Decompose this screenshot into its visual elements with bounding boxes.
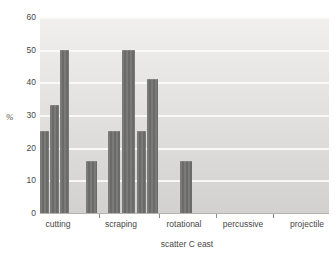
bar-rotational-16 — [180, 161, 192, 213]
y-axis-title: % — [6, 113, 14, 122]
gridline-60 — [40, 17, 329, 19]
y-axis-tick-label: 20 — [10, 144, 36, 153]
gridline-50 — [40, 50, 329, 52]
y-axis-tick-label: 30 — [10, 111, 36, 120]
gridline-30 — [40, 115, 329, 117]
y-axis-tick-label: 50 — [10, 46, 36, 55]
bar-scraping-25 — [137, 131, 146, 213]
x-category-label-cutting: cutting — [45, 220, 70, 229]
x-category-label-scraping: scraping — [105, 220, 137, 229]
category-boundary-tick — [159, 214, 160, 218]
y-axis-tick-label: 60 — [10, 13, 36, 22]
bar-scraping-41 — [147, 79, 158, 213]
x-category-label-percussive: percussive — [223, 220, 264, 229]
y-axis-tick-label: 0 — [10, 209, 36, 218]
bar-cutting-33 — [50, 105, 59, 213]
x-axis-title: scatter C east — [161, 240, 213, 249]
bar-cutting-50 — [60, 50, 69, 213]
bar-chart-figure: 0102030405060 cuttingscrapingrotationalp… — [0, 0, 336, 256]
gridline-40 — [40, 82, 329, 84]
category-boundary-tick — [273, 214, 274, 218]
y-axis-tick-label: 10 — [10, 176, 36, 185]
bar-cutting-16 — [86, 161, 97, 213]
y-axis-tick-label: 40 — [10, 78, 36, 87]
x-category-label-rotational: rotational — [167, 220, 202, 229]
bar-scraping-50 — [122, 50, 135, 213]
category-boundary-tick — [216, 214, 217, 218]
bar-scraping-25 — [108, 131, 120, 213]
x-category-label-projectile: projectile — [290, 220, 324, 229]
gridline-20 — [40, 148, 329, 150]
category-boundary-tick — [99, 214, 100, 218]
bar-cutting-25 — [40, 131, 49, 213]
